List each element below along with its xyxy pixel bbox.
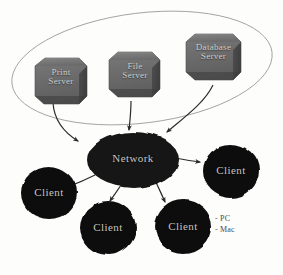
client-right-node[interactable] <box>203 144 259 198</box>
connector-file-to-network <box>129 101 131 130</box>
legend-label-pc: PC <box>220 214 230 223</box>
client-left-node[interactable] <box>21 167 77 219</box>
legend-item-pc: -PC <box>215 214 230 223</box>
legend-label-mac: Mac <box>220 225 235 234</box>
network-cloud[interactable] <box>87 132 179 188</box>
diagram-canvas <box>0 0 283 275</box>
client-bottom-right-node[interactable] <box>155 200 211 254</box>
database-server-box[interactable] <box>186 34 241 80</box>
file-server-box[interactable] <box>109 52 160 97</box>
connector-database-to-network <box>167 85 213 132</box>
print-server-box[interactable] <box>35 58 87 104</box>
network-diagram: Print Server File Server Database Server… <box>0 0 283 275</box>
client-bottom-left-node[interactable] <box>80 201 136 255</box>
legend-item-mac: -Mac <box>215 225 235 234</box>
